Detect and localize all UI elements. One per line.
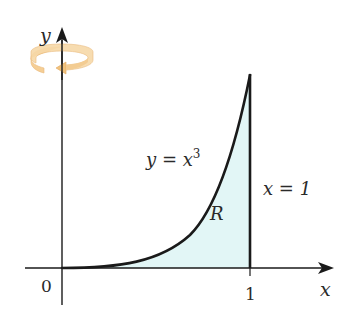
boundary-label-text: x = 1 xyxy=(263,178,311,199)
curve-label: y = x3 xyxy=(145,147,201,170)
region-r-fill xyxy=(62,75,250,268)
curve-label-base: y = x xyxy=(145,149,193,170)
figure-canvas: y x 0 1 y = x3 x = 1 R xyxy=(0,0,349,327)
region-label: R xyxy=(209,203,224,224)
boundary-label: x = 1 xyxy=(263,178,311,199)
x-axis-label: x xyxy=(320,278,331,300)
y-axis-label: y xyxy=(39,24,51,46)
curve-label-exponent: 3 xyxy=(193,147,201,161)
origin-label: 0 xyxy=(41,276,52,296)
x-tick-label-1: 1 xyxy=(245,284,256,304)
